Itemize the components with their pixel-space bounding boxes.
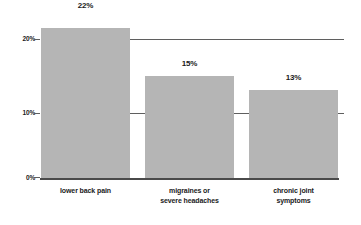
bar-value-label-1: 22%: [41, 1, 130, 10]
category-label-line: symptoms: [249, 196, 338, 206]
category-label-line: migraines or: [145, 186, 234, 196]
category-label-line: lower back pain: [41, 186, 130, 196]
category-label-lower-back-pain: lower back pain: [41, 186, 130, 196]
gridline-tick-right-10: [338, 113, 344, 114]
bar-rect-1: [41, 28, 130, 178]
plot-area: 22% 15% 13%: [41, 14, 338, 178]
y-axis-tick-label-10: 10%: [5, 109, 35, 116]
y-axis-tick-label-20: 20%: [5, 35, 35, 42]
bar-rect-2: [145, 76, 234, 178]
gridline-tick-right-20: [338, 39, 344, 40]
category-label-line: chronic joint: [249, 186, 338, 196]
bar-chart: 20% 10% 0% 22% 15% 13%: [0, 0, 361, 225]
category-label-chronic-joint-symptoms: chronic joint symptoms: [249, 186, 338, 206]
gridline-tick-left-0: [34, 177, 40, 178]
bar-chronic-joint-symptoms[interactable]: 13%: [249, 14, 338, 178]
bar-value-label-2: 15%: [145, 59, 234, 68]
category-label-migraines-or-severe-headaches: migraines or severe headaches: [145, 186, 234, 206]
bar-lower-back-pain[interactable]: 22%: [41, 14, 130, 178]
bars-layer: 22% 15% 13%: [41, 14, 338, 178]
y-axis-tick-label-0: 0%: [5, 174, 35, 181]
gridline-tick-left-10: [34, 113, 40, 114]
bar-migraines-or-severe-headaches[interactable]: 15%: [145, 14, 234, 178]
gridline-tick-left-20: [34, 39, 40, 40]
bar-rect-3: [249, 90, 338, 178]
x-axis-baseline: [40, 178, 339, 180]
bar-value-label-3: 13%: [249, 73, 338, 82]
category-label-line: severe headaches: [145, 196, 234, 206]
